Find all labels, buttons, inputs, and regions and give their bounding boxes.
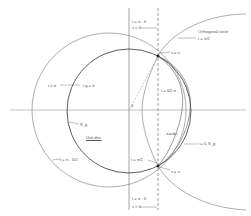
label-t-theta-half-pi: t = θ/2 π — [161, 88, 176, 93]
label-t-theta: t = θ — [167, 131, 175, 136]
label-bottom-s: s > 0 — [132, 204, 141, 209]
leader-sg-left — [69, 122, 79, 124]
label-t-g-pi: t g = π — [83, 83, 95, 88]
label-bottom-t: t = π - θ — [132, 196, 146, 201]
label-s-g-left: S_g — [80, 122, 87, 127]
lower-intersection-point — [157, 165, 160, 168]
arc-t-theta — [158, 56, 183, 166]
orthogonal-circle — [142, 14, 246, 210]
label-top-t: t = ∞ - θ — [132, 19, 146, 24]
label-t-zero-sg: t = 0, S_g — [198, 141, 215, 146]
leader-t-pi-theta — [52, 159, 60, 160]
label-origin: 0 — [131, 103, 133, 108]
label-t-pi-left: t ≠ π — [48, 83, 56, 88]
label-top-s: s < 0 — [132, 25, 141, 30]
label-orthogonal-circle: Orthogonal circle — [198, 29, 228, 34]
leader-s-inf-bottom — [160, 167, 170, 170]
label-t-pi-half-bottom: t = π/2 — [131, 157, 143, 162]
label-s-inf-top: s = ∞ — [171, 50, 180, 55]
label-t-pi-theta-half: t = π - θ/2 — [60, 157, 78, 162]
label-unit-disc: Unit disc — [86, 135, 101, 140]
label-s-inf-bottom: s = ∞ — [171, 169, 180, 174]
label-t-pi-half-top: t = π/2 — [198, 36, 210, 41]
angle-ray — [130, 56, 158, 109]
leader-s-inf-top — [160, 52, 170, 53]
